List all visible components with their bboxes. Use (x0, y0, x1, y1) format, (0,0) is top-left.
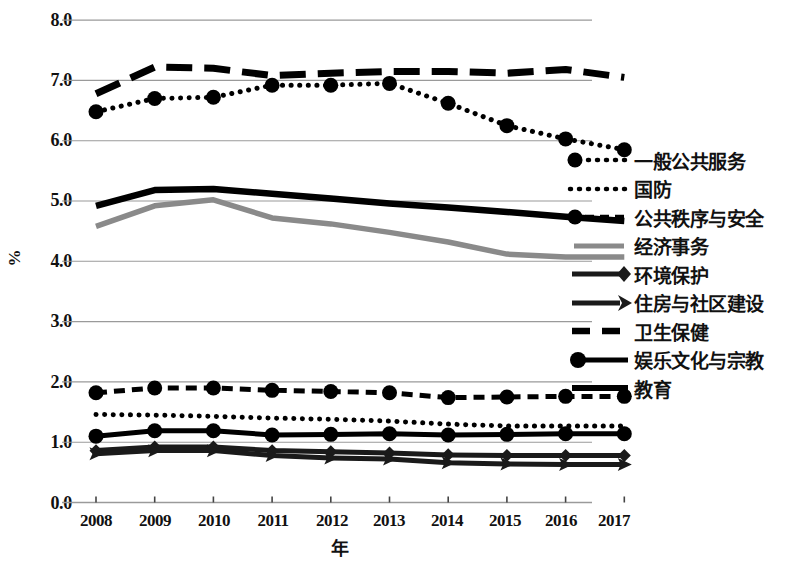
legend: 一般公共服务 国防 公共秩序与安全 (562, 146, 799, 403)
legend-label: 一般公共服务 (634, 147, 745, 174)
legend-label: 经济事务 (634, 232, 708, 259)
legend-label: 公共秩序与安全 (634, 204, 764, 231)
dotted-circle-key-icon (562, 147, 634, 173)
legend-item-public-order-safety[interactable]: 公共秩序与安全 (562, 203, 799, 232)
thick-dashed-key-icon (562, 318, 634, 344)
legend-label: 环境保护 (634, 261, 708, 288)
legend-label: 卫生保健 (634, 318, 708, 345)
gray-solid-key-icon (562, 233, 634, 259)
legend-item-general-public-services[interactable]: 一般公共服务 (562, 146, 799, 175)
legend-label: 住房与社区建设 (634, 289, 764, 316)
series-layer (89, 67, 632, 471)
chart-container: % 8.0 7.0 6.0 5.0 4.0 3.0 2.0 1.0 0.0 20… (0, 0, 799, 561)
legend-item-recreation-culture-religion[interactable]: 娱乐文化与宗教 (562, 346, 799, 375)
legend-item-economic-affairs[interactable]: 经济事务 (562, 232, 799, 261)
legend-item-national-defense[interactable]: 国防 (562, 175, 799, 204)
thick-solid-key-icon (562, 375, 634, 401)
circle-solid-key-icon (562, 347, 634, 373)
legend-item-education[interactable]: 教育 (562, 374, 799, 403)
legend-label: 娱乐文化与宗教 (634, 346, 764, 373)
arrow-key-icon (562, 290, 634, 316)
x-axis-ticks (96, 497, 624, 503)
legend-item-housing-community[interactable]: 住房与社区建设 (562, 289, 799, 318)
dotted-key-icon (562, 176, 634, 202)
legend-item-health-care[interactable]: 卫生保健 (562, 317, 799, 346)
diamond-key-icon (562, 261, 634, 287)
legend-item-environmental-protection[interactable]: 环境保护 (562, 260, 799, 289)
dashed-circle-key-icon (562, 204, 634, 230)
legend-label: 国防 (634, 175, 671, 202)
legend-label: 教育 (634, 375, 671, 402)
